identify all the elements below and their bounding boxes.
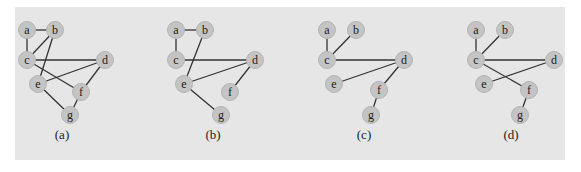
svg-text:b: b bbox=[52, 23, 58, 37]
graph-figure: abcdefg(a)abcdefg(b)abcdefg(c)abcdefg(d) bbox=[0, 0, 581, 172]
node-a: a bbox=[168, 22, 185, 39]
svg-text:e: e bbox=[331, 77, 336, 91]
svg-text:c: c bbox=[324, 53, 329, 67]
node-b: b bbox=[47, 22, 64, 39]
node-c: c bbox=[168, 52, 185, 69]
svg-text:a: a bbox=[473, 23, 479, 37]
node-e: e bbox=[476, 76, 493, 93]
svg-text:g: g bbox=[67, 108, 73, 122]
node-d: d bbox=[247, 52, 264, 69]
node-b: b bbox=[497, 22, 514, 39]
svg-text:f: f bbox=[228, 85, 232, 99]
svg-text:f: f bbox=[377, 83, 381, 97]
node-f: f bbox=[371, 82, 388, 99]
node-g: g bbox=[512, 107, 529, 124]
svg-text:b: b bbox=[353, 23, 359, 37]
node-e: e bbox=[176, 76, 193, 93]
node-f: f bbox=[521, 82, 538, 99]
node-c: c bbox=[468, 52, 485, 69]
svg-text:d: d bbox=[102, 53, 108, 67]
node-a: a bbox=[319, 22, 336, 39]
node-f: f bbox=[222, 84, 239, 101]
graph-d: abcdefg(d) bbox=[468, 22, 563, 143]
node-c: c bbox=[319, 52, 336, 69]
node-a: a bbox=[468, 22, 485, 39]
edge-d-e bbox=[184, 60, 255, 84]
svg-text:d: d bbox=[551, 53, 557, 67]
node-f: f bbox=[73, 84, 90, 101]
node-d: d bbox=[546, 52, 563, 69]
node-b: b bbox=[348, 22, 365, 39]
svg-text:d: d bbox=[252, 53, 258, 67]
svg-text:e: e bbox=[481, 77, 486, 91]
node-g: g bbox=[213, 107, 230, 124]
svg-text:e: e bbox=[35, 77, 40, 91]
svg-text:f: f bbox=[79, 85, 83, 99]
svg-text:f: f bbox=[527, 83, 531, 97]
svg-text:b: b bbox=[502, 23, 508, 37]
node-g: g bbox=[62, 107, 79, 124]
node-d: d bbox=[97, 52, 114, 69]
caption: (a) bbox=[55, 127, 69, 142]
node-b: b bbox=[197, 22, 214, 39]
svg-text:a: a bbox=[173, 23, 179, 37]
svg-text:c: c bbox=[173, 53, 178, 67]
svg-text:g: g bbox=[368, 108, 374, 122]
node-d: d bbox=[396, 52, 413, 69]
graph-c: abcdefg(c) bbox=[319, 22, 413, 143]
node-c: c bbox=[19, 52, 36, 69]
svg-text:c: c bbox=[473, 53, 478, 67]
caption: (d) bbox=[503, 127, 518, 142]
svg-text:c: c bbox=[24, 53, 29, 67]
svg-text:d: d bbox=[401, 53, 407, 67]
caption: (c) bbox=[357, 127, 371, 142]
caption: (b) bbox=[205, 127, 220, 142]
svg-text:e: e bbox=[181, 77, 186, 91]
graph-b: abcdefg(b) bbox=[168, 22, 264, 143]
edge-d-e bbox=[484, 60, 554, 84]
svg-text:a: a bbox=[24, 23, 30, 37]
node-e: e bbox=[326, 76, 343, 93]
svg-text:a: a bbox=[324, 23, 330, 37]
svg-text:g: g bbox=[517, 108, 523, 122]
node-a: a bbox=[19, 22, 36, 39]
node-e: e bbox=[30, 76, 47, 93]
svg-text:b: b bbox=[202, 23, 208, 37]
node-g: g bbox=[363, 107, 380, 124]
graph-a: abcdefg(a) bbox=[19, 22, 114, 143]
svg-text:g: g bbox=[218, 108, 224, 122]
